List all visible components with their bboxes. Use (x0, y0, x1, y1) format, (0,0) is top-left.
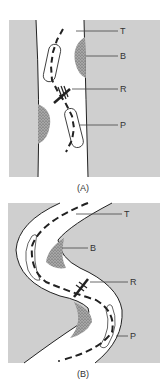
bleb-left (38, 104, 50, 144)
label-p: P (130, 331, 136, 341)
label-t: T (120, 26, 126, 36)
label-r: R (130, 277, 137, 287)
panel-b: T B R P (B) (8, 203, 160, 379)
label-p: P (120, 120, 126, 130)
strand-end-dot (58, 360, 60, 362)
label-b: B (120, 51, 126, 61)
left-wall-tissue (9, 20, 39, 177)
label-r: R (120, 84, 127, 94)
label-b: B (90, 243, 96, 253)
bleb-b (74, 37, 86, 78)
label-t: T (124, 209, 130, 219)
right-wall-tissue (84, 20, 160, 177)
capsule-p (63, 107, 84, 149)
caption-b: (B) (77, 369, 89, 379)
caption-a: (A) (77, 183, 89, 193)
diagram-canvas: T B R P (A) (0, 0, 167, 391)
panel-a: T B R P (A) (9, 20, 160, 193)
